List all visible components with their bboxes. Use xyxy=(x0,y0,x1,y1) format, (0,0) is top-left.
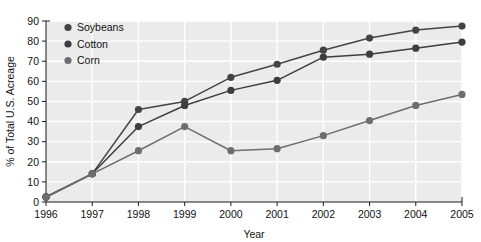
x-tick-label: 2003 xyxy=(358,208,382,220)
data-point xyxy=(227,147,234,154)
legend-marker-soybeans xyxy=(64,24,71,31)
chart-figure: 0102030405060708090 19961997199819992000… xyxy=(0,0,481,242)
data-point xyxy=(458,39,465,46)
data-point xyxy=(135,147,142,154)
legend-label-cotton: Cotton xyxy=(77,38,108,50)
y-tick-label: 0 xyxy=(33,196,39,208)
data-point xyxy=(274,145,281,152)
x-tick-label: 1997 xyxy=(81,208,105,220)
y-tick-label: 50 xyxy=(27,95,39,107)
legend-marker-corn xyxy=(64,57,71,64)
data-point xyxy=(458,91,465,98)
x-tick-label: 1999 xyxy=(173,208,197,220)
data-point xyxy=(366,34,373,41)
legend-marker-cotton xyxy=(64,40,71,47)
data-point xyxy=(320,132,327,139)
data-point xyxy=(366,51,373,58)
y-axis-title: % of Total U.S. Acreage xyxy=(4,56,16,167)
y-tick-label: 10 xyxy=(27,176,39,188)
data-point xyxy=(320,47,327,54)
x-axis-title: Year xyxy=(243,228,265,240)
y-axis-tick-labels: 0102030405060708090 xyxy=(27,15,39,208)
data-point xyxy=(274,61,281,68)
y-tick-label: 30 xyxy=(27,135,39,147)
y-tick-label: 20 xyxy=(27,156,39,168)
x-tick-label: 2001 xyxy=(265,208,289,220)
data-point xyxy=(181,123,188,130)
y-tick-label: 40 xyxy=(27,115,39,127)
legend-label-soybeans: Soybeans xyxy=(77,21,124,33)
legend-label-corn: Corn xyxy=(77,54,100,66)
y-tick-label: 70 xyxy=(27,55,39,67)
data-point xyxy=(181,102,188,109)
data-point xyxy=(227,74,234,81)
data-point xyxy=(366,117,373,124)
y-tick-label: 60 xyxy=(27,75,39,87)
data-point xyxy=(412,26,419,33)
data-point xyxy=(412,102,419,109)
x-tick-label: 1998 xyxy=(127,208,151,220)
x-tick-label: 2004 xyxy=(404,208,428,220)
data-point xyxy=(412,45,419,52)
data-point xyxy=(42,193,49,200)
y-tick-label: 80 xyxy=(27,35,39,47)
y-tick-label: 90 xyxy=(27,15,39,27)
data-point xyxy=(458,22,465,29)
data-point xyxy=(274,77,281,84)
data-point xyxy=(320,54,327,61)
x-tick-label: 2000 xyxy=(219,208,243,220)
data-point xyxy=(227,87,234,94)
data-point xyxy=(135,123,142,130)
x-axis-tick-labels: 1996199719981999200020012002200320042005 xyxy=(34,208,474,220)
x-tick-label: 1996 xyxy=(34,208,58,220)
data-point xyxy=(135,106,142,113)
data-point xyxy=(89,170,96,177)
x-tick-label: 2005 xyxy=(450,208,474,220)
x-tick-label: 2002 xyxy=(312,208,336,220)
line-chart-svg: 0102030405060708090 19961997199819992000… xyxy=(0,0,481,242)
